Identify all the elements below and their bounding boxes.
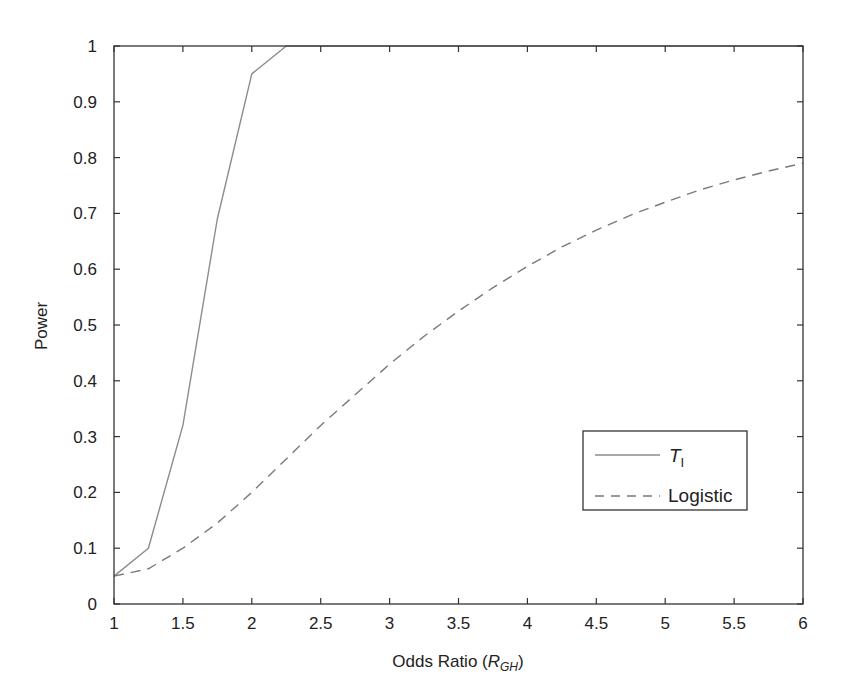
y-tick-label: 0.9 bbox=[73, 93, 97, 112]
x-tick-label: 2 bbox=[247, 614, 256, 633]
x-tick-label: 1.5 bbox=[171, 614, 195, 633]
y-tick-label: 0.3 bbox=[73, 428, 97, 447]
y-tick-label: 0.7 bbox=[73, 204, 97, 223]
x-tick-label: 4.5 bbox=[584, 614, 608, 633]
x-tick-label: 4 bbox=[523, 614, 532, 633]
x-tick-label: 1 bbox=[109, 614, 118, 633]
x-tick-label: 2.5 bbox=[309, 614, 333, 633]
x-tick-label: 3 bbox=[385, 614, 394, 633]
y-tick-label: 0.2 bbox=[73, 483, 97, 502]
x-tick-label: 5 bbox=[660, 614, 669, 633]
x-tick-label: 5.5 bbox=[722, 614, 746, 633]
y-tick-label: 0.4 bbox=[73, 372, 97, 391]
x-tick-label: 3.5 bbox=[447, 614, 471, 633]
legend: TI Logistic bbox=[583, 431, 747, 510]
y-tick-label: 0 bbox=[88, 595, 97, 614]
y-tick-label: 0.1 bbox=[73, 539, 97, 558]
y-tick-label: 0.6 bbox=[73, 260, 97, 279]
y-axis-title: Power bbox=[32, 302, 51, 351]
legend-label-logistic: Logistic bbox=[668, 485, 732, 506]
y-tick-label: 0.8 bbox=[73, 149, 97, 168]
x-tick-label: 6 bbox=[798, 614, 807, 633]
power-chart: 11.522.533.544.555.56 00.10.20.30.40.50.… bbox=[0, 0, 841, 700]
y-tick-label: 0.5 bbox=[73, 316, 97, 335]
y-tick-label: 1 bbox=[88, 37, 97, 56]
chart-background bbox=[0, 0, 841, 700]
